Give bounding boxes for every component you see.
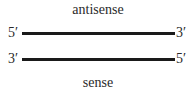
antisense-right-end-label: 3′ (176, 26, 186, 40)
sense-left-end-label: 3′ (8, 52, 18, 66)
antisense-label: antisense (0, 3, 196, 17)
antisense-strand-line (22, 32, 175, 35)
sense-right-end-label: 5′ (176, 52, 186, 66)
sense-label: sense (0, 76, 196, 90)
antisense-left-end-label: 5′ (8, 26, 18, 40)
sense-strand-line (22, 58, 175, 61)
